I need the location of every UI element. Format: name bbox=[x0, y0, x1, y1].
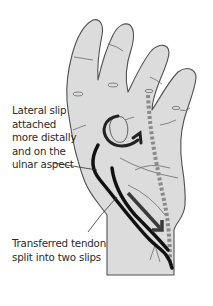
hand-tendon-diagram: Lateral slip attached more distally and … bbox=[0, 0, 213, 306]
transferred-tendon-label: Transferred tendon split into two slips bbox=[12, 237, 106, 264]
lateral-slip-label: Lateral slip attached more distally and … bbox=[12, 104, 76, 172]
